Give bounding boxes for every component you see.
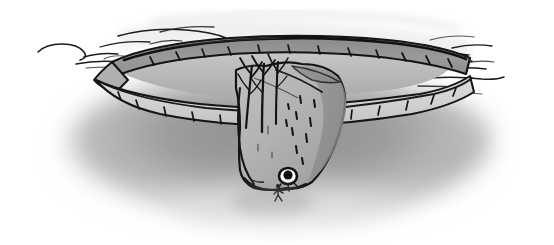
illustration-canvas: Cave Opening Seen From Below A rocky led… bbox=[0, 0, 554, 245]
cave-opening-illustration bbox=[0, 0, 554, 245]
tip-shadow bbox=[230, 188, 314, 216]
